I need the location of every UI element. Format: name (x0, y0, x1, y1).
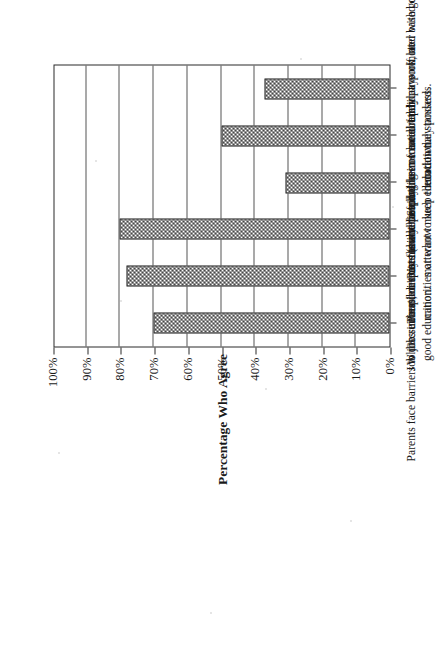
category-tick-mark (390, 275, 396, 276)
scan-speckle (392, 206, 394, 208)
plot-area (53, 64, 390, 347)
category-tick-mark (390, 134, 396, 135)
y-tick-label: 0% (384, 357, 397, 374)
bar-slot (54, 65, 389, 112)
scan-speckle (210, 612, 212, 614)
bar[interactable] (264, 78, 389, 99)
y-tick-label: 100% (47, 357, 60, 387)
y-tick-mark (390, 347, 391, 354)
scan-speckle (265, 388, 267, 390)
y-tick-mark (87, 347, 88, 354)
bar-slot (54, 252, 389, 299)
scan-speckle (300, 58, 302, 60)
y-axis-title: Percentage Who Agree (53, 409, 390, 429)
y-tick-mark (53, 347, 54, 354)
bar-series (54, 65, 389, 346)
scan-speckle (350, 520, 352, 522)
y-tick-mark (188, 347, 189, 354)
y-tick-mark (356, 347, 357, 354)
y-tick-label: 30% (283, 357, 296, 380)
scan-speckle (120, 300, 122, 302)
scan-speckle (58, 452, 60, 454)
bar-slot (54, 206, 389, 253)
y-tick-label: 40% (249, 357, 262, 380)
bar-slot (54, 159, 389, 206)
y-tick-label: 90% (80, 357, 93, 380)
y-tick-mark (289, 347, 290, 354)
y-tick-mark (120, 347, 121, 354)
y-tick-mark (255, 347, 256, 354)
y-tick-label: 60% (182, 357, 195, 380)
category-tick-mark (390, 87, 396, 88)
bar-slot (54, 112, 389, 159)
y-tick-mark (154, 347, 155, 354)
category-tick-mark (390, 322, 396, 323)
bar[interactable] (285, 172, 389, 193)
y-tick-label: 10% (350, 357, 363, 380)
category-tick-mark (390, 228, 396, 229)
y-tick-label: 20% (316, 357, 329, 380)
category-label: Studying in school rarely pays off later… (402, 0, 418, 233)
bar[interactable] (153, 312, 389, 333)
y-tick-label: 70% (148, 357, 161, 380)
scan-speckle (95, 160, 97, 162)
category-tick-mark (390, 181, 396, 182)
y-tick-label: 80% (114, 357, 127, 380)
bar[interactable] (119, 218, 389, 239)
bar-slot (54, 299, 389, 346)
bar[interactable] (221, 125, 390, 146)
y-tick-mark (323, 347, 324, 354)
bar[interactable] (126, 265, 389, 286)
